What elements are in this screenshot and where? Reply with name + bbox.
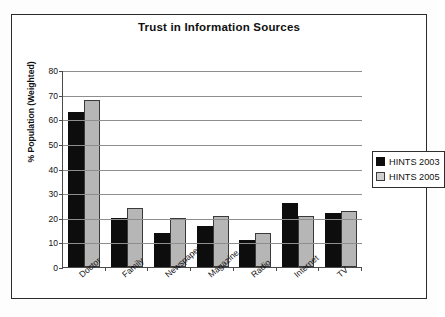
x-axis-label-cell: Magazine [191,268,234,317]
y-axis-tick [59,145,63,146]
legend-swatch-icon [376,172,385,181]
bar [282,203,298,267]
legend-swatch-icon [376,157,385,166]
y-axis-tick [59,243,63,244]
gridline [63,170,362,171]
gridline [63,194,362,195]
y-axis-tick-label: 70 [36,91,58,101]
y-axis-tick-labels: 80706050403020100 [34,71,58,268]
bar [84,100,100,267]
legend-item: HINTS 2005 [376,169,440,184]
gridline [63,145,362,146]
y-axis-tick-label: 80 [36,66,58,76]
x-axis-label-cell: Newspaper [148,268,191,317]
y-axis-tick [59,194,63,195]
y-axis-tick-label: 50 [36,140,58,150]
chart-legend: HINTS 2003 HINTS 2005 [372,151,445,188]
bar [325,213,341,267]
plot-area [62,71,362,268]
y-axis-tick-label: 10 [36,238,58,248]
x-axis-tick-labels: DoctorFamilyNewspaperMagazineRadioIntern… [62,268,362,317]
y-axis-tick [59,170,63,171]
y-axis-tick-label: 60 [36,115,58,125]
y-axis-tick-label: 30 [36,189,58,199]
gridline [63,219,362,220]
y-axis-tick-label: 0 [36,263,58,273]
x-axis-label-cell: Internet [276,268,319,317]
y-axis-tick-label: 20 [36,214,58,224]
chart-frame: Trust in Information Sources % Populatio… [11,14,427,299]
y-axis-tick [59,71,63,72]
gridline [63,120,362,121]
y-axis-tick-label: 40 [36,165,58,175]
x-axis-label-cell: TV [319,268,362,317]
gridline [63,243,362,244]
y-axis-tick [59,120,63,121]
bar [154,233,170,267]
chart-title: Trust in Information Sources [12,21,426,33]
x-axis-label-cell: Radio [233,268,276,317]
x-axis-label-cell: Doctor [62,268,105,317]
gridline [63,96,362,97]
x-axis-label-cell: Family [105,268,148,317]
legend-item: HINTS 2003 [376,154,440,169]
y-axis-tick [59,96,63,97]
y-axis-tick [59,219,63,220]
legend-item-label: HINTS 2005 [389,172,440,182]
legend-item-label: HINTS 2003 [389,157,440,167]
gridline [63,71,362,72]
